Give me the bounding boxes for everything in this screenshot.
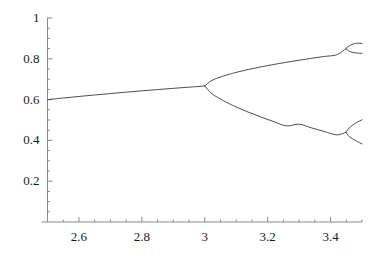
curve-period-4-branch-1 <box>346 43 362 48</box>
x-tick-label: 3 <box>180 230 230 243</box>
data-curves <box>48 43 363 144</box>
y-tick-label: 0.2 <box>23 174 39 187</box>
curve-period-2-lower-branch <box>205 86 346 135</box>
x-tick-label: 3.2 <box>243 230 293 243</box>
axes <box>42 18 363 223</box>
y-tick-label: 0.8 <box>23 52 39 65</box>
x-tick-label: 2.8 <box>117 230 167 243</box>
curve-period-4-branch-2 <box>346 49 362 54</box>
bifurcation-diagram-figure: 0.20.40.60.81 2.62.833.23.4 <box>0 0 377 257</box>
x-tick-label: 2.6 <box>54 230 104 243</box>
x-tick-label: 3.4 <box>306 230 356 243</box>
y-tick-label: 1 <box>33 11 40 24</box>
curve-period-4-branch-4 <box>346 132 362 144</box>
y-tick-label: 0.6 <box>23 93 39 106</box>
y-tick-label: 0.4 <box>23 133 39 146</box>
plot-canvas <box>0 0 377 257</box>
curve-fixed-point-branch <box>48 86 205 100</box>
curve-period-4-branch-3 <box>346 120 362 132</box>
curve-period-2-upper-branch <box>205 49 346 86</box>
